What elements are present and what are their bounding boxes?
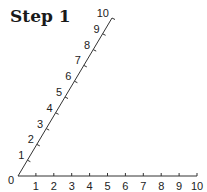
horizontal-tick-label: 4 xyxy=(87,180,93,192)
diagonal-tick xyxy=(84,65,87,67)
diagonal-tick-label: 8 xyxy=(84,39,90,51)
diagonal-tick xyxy=(27,160,30,162)
horizontal-tick-label: 1 xyxy=(33,180,39,192)
horizontal-tick-label: 7 xyxy=(140,180,146,192)
diagonal-tick-label: 9 xyxy=(93,23,99,35)
diagonal-tick-label: 7 xyxy=(75,54,81,66)
number-line-diagram: 01234567891012345678910 xyxy=(0,0,207,192)
diagonal-tick-label: 6 xyxy=(65,70,71,82)
diagonal-tick-label: 1 xyxy=(18,149,24,161)
diagonal-tick xyxy=(65,97,68,99)
horizontal-tick-label: 8 xyxy=(158,180,164,192)
horizontal-tick-label: 6 xyxy=(122,180,128,192)
diagonal-tick xyxy=(74,81,77,83)
horizontal-tick-label: 3 xyxy=(69,180,75,192)
diagonal-tick xyxy=(112,18,115,20)
diagonal-tick xyxy=(56,113,59,115)
horizontal-tick-label: 5 xyxy=(104,180,110,192)
diagonal-tick xyxy=(37,144,40,146)
diagonal-tick-label: 10 xyxy=(97,7,109,19)
diagonal-tick xyxy=(46,129,49,131)
diagonal-tick-label: 2 xyxy=(28,133,34,145)
diagonal-tick-label: 4 xyxy=(46,102,52,114)
diagonal-tick xyxy=(93,50,96,52)
horizontal-tick-label: 2 xyxy=(51,180,57,192)
origin-label: 0 xyxy=(8,174,14,186)
horizontal-tick-label: 9 xyxy=(176,180,182,192)
diagonal-tick-label: 3 xyxy=(37,118,43,130)
diagonal-tick xyxy=(103,34,106,36)
diagonal-tick-label: 5 xyxy=(56,86,62,98)
horizontal-tick-label: 10 xyxy=(191,180,203,192)
